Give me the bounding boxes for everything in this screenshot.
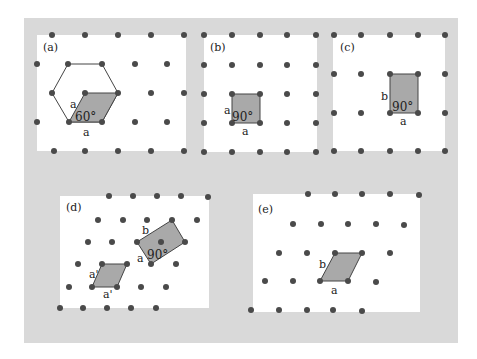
panel-e-label: (e): [258, 203, 273, 216]
edge-label-b-bottom: a: [242, 125, 249, 138]
angle-label-60: 60°: [75, 110, 96, 124]
panel-d-label: (d): [66, 201, 82, 214]
panel-d: (d) a' a' b a 90°: [57, 193, 211, 311]
edge-label-c-side: b: [381, 90, 388, 103]
angle-label-90: 90°: [392, 100, 413, 114]
angle-label-90: 90°: [232, 110, 253, 124]
panel-a-label: (a): [43, 41, 58, 54]
edge-label-a-bottom: a: [83, 126, 90, 139]
edge-label-d-primitive-side: a': [89, 268, 99, 281]
edge-label-b-side: a: [224, 104, 231, 117]
edge-label-d-primitive-bottom: a': [103, 288, 113, 301]
lattice-figure: (a) a a 60° (b) a a 90° (c) b a 9: [0, 0, 477, 359]
edge-label-e-b: b: [319, 258, 326, 271]
angle-label-90: 90°: [147, 248, 168, 262]
panel-a: (a) a a 60°: [34, 32, 187, 154]
panel-e: (e) b a: [248, 191, 422, 314]
panel-c: (c) b a 90°: [331, 32, 448, 154]
edge-label-d-b: b: [142, 224, 149, 237]
panel-c-label: (c): [340, 41, 355, 54]
edge-label-e-a: a: [331, 284, 338, 297]
panel-b-label: (b): [210, 41, 226, 54]
panel-d-background: [60, 196, 209, 308]
panel-b: (b) a a 90°: [201, 32, 319, 155]
edge-label-c-bottom: a: [400, 115, 407, 128]
edge-label-d-a: a: [137, 252, 144, 265]
